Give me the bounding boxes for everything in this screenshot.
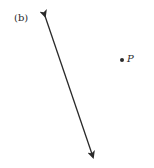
point-p-dot	[120, 58, 124, 62]
diagram-canvas: (b) P	[0, 0, 154, 168]
double-arrow-line	[45, 16, 93, 157]
line-diagram	[0, 0, 154, 168]
point-label: P	[127, 53, 134, 64]
